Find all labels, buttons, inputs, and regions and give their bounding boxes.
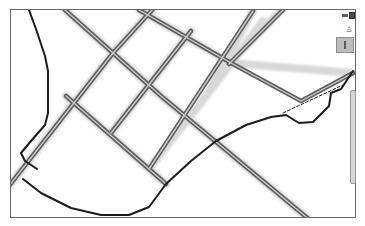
layers-box xyxy=(349,12,355,19)
zoom-slider-handle[interactable] xyxy=(336,37,354,53)
boundary-dashed xyxy=(283,85,343,113)
person-icon[interactable]: ♙ xyxy=(345,25,353,34)
map-viewport[interactable] xyxy=(10,9,356,218)
map-canvas[interactable] xyxy=(11,10,356,218)
boundary-south xyxy=(23,71,353,215)
vertical-scrollbar[interactable] xyxy=(350,90,356,184)
layers-bar xyxy=(342,14,348,17)
zoom-handle-icon xyxy=(344,41,346,49)
layers-icon[interactable] xyxy=(342,12,355,20)
